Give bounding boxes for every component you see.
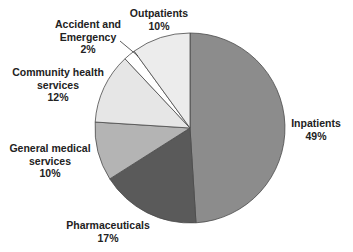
label-inpatients: Inpatients 49% [288, 117, 344, 142]
label-accident-emergency-line2: Emergency [52, 31, 124, 44]
label-inpatients-value: 49% [288, 130, 344, 143]
label-community-health: Community health services 12% [8, 66, 108, 104]
label-pharmaceuticals-name: Pharmaceuticals [62, 219, 154, 232]
label-general-medical-line1: General medical [4, 142, 96, 155]
label-outpatients-value: 10% [126, 20, 192, 33]
label-community-health-line1: Community health [8, 66, 108, 79]
label-pharmaceuticals-value: 17% [62, 232, 154, 245]
label-community-health-value: 12% [8, 91, 108, 104]
label-general-medical: General medical services 10% [4, 142, 96, 180]
label-community-health-line2: services [8, 79, 108, 92]
label-accident-emergency: Accident and Emergency 2% [52, 18, 124, 56]
pie-slices [95, 33, 285, 223]
label-pharmaceuticals: Pharmaceuticals 17% [62, 219, 154, 244]
label-inpatients-name: Inpatients [288, 117, 344, 130]
label-outpatients: Outpatients 10% [126, 7, 192, 32]
label-general-medical-value: 10% [4, 167, 96, 180]
pie-slice-inpatients [190, 33, 285, 223]
label-accident-emergency-line1: Accident and [52, 18, 124, 31]
label-accident-emergency-value: 2% [52, 43, 124, 56]
label-general-medical-line2: services [4, 155, 96, 168]
label-outpatients-name: Outpatients [126, 7, 192, 20]
